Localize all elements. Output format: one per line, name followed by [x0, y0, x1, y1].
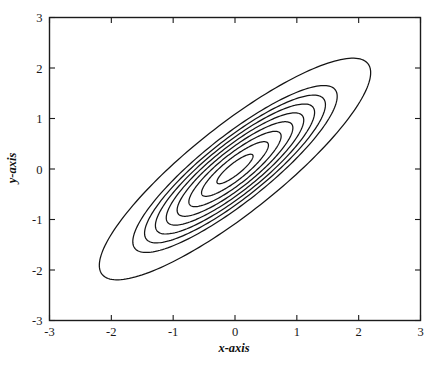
x-tick-label: 2	[356, 325, 362, 339]
contour-line	[133, 86, 337, 253]
axis-tick-labels: -3-2-10123-3-2-10123	[32, 11, 424, 339]
y-tick-label: -2	[32, 264, 42, 278]
contour-line	[166, 113, 303, 225]
x-tick-label: 1	[294, 325, 300, 339]
contour-line	[99, 58, 370, 280]
plot-canvas: -3-2-10123-3-2-10123 x-axis y-axis	[0, 0, 439, 366]
x-tick-label: -1	[168, 325, 178, 339]
y-tick-label: 0	[36, 163, 42, 177]
x-tick-label: -2	[106, 325, 116, 339]
contour-line	[177, 122, 293, 217]
y-tick-label: -3	[32, 314, 42, 328]
axes-frame	[50, 18, 421, 321]
y-tick-label: 1	[36, 112, 42, 126]
x-tick-label: 0	[232, 325, 238, 339]
axis-ticks	[50, 18, 421, 321]
y-axis-title: y-axis	[5, 153, 19, 186]
contour-plot-figure: -3-2-10123-3-2-10123 x-axis y-axis	[0, 0, 439, 366]
contour-series	[99, 58, 370, 280]
x-tick-label: -3	[44, 325, 54, 339]
x-axis-title: x-axis	[217, 341, 249, 355]
y-tick-label: -1	[32, 213, 42, 227]
contour-line	[217, 154, 253, 184]
plot-frame	[50, 18, 421, 321]
x-tick-label: 3	[417, 325, 423, 339]
y-tick-label: 2	[36, 62, 42, 76]
y-tick-label: 3	[36, 11, 42, 25]
contour-line	[145, 95, 326, 243]
